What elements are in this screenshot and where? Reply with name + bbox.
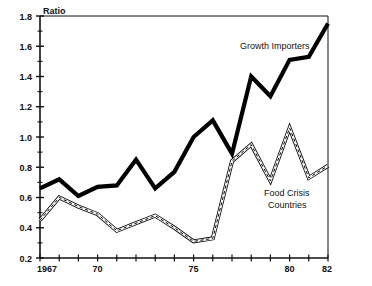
y-tick-label-0.2: 0.2 xyxy=(19,254,32,264)
y-tick-label-1.0: 1.0 xyxy=(19,133,32,143)
y-tick-label-1.2: 1.2 xyxy=(19,102,32,112)
chart-container: Ratio 0.20.40.60.81.01.21.41.61.8 196770… xyxy=(0,0,372,286)
x-tick-label-1967: 1967 xyxy=(37,264,57,274)
y-tick-label-0.8: 0.8 xyxy=(19,163,32,173)
y-tick-label-1.6: 1.6 xyxy=(19,42,32,52)
food-crisis-label-line2: Countries xyxy=(268,200,307,210)
y-axis-tick-labels: 0.20.40.60.81.01.21.41.61.8 xyxy=(19,12,32,264)
x-tick-label-80: 80 xyxy=(285,264,295,274)
y-tick-label-1.8: 1.8 xyxy=(19,12,32,22)
growth-importers-label: Growth Importers xyxy=(240,41,310,51)
x-tick-label-75: 75 xyxy=(189,264,199,274)
x-tick-label-82: 82 xyxy=(322,264,332,274)
line-chart: Ratio 0.20.40.60.81.01.21.41.61.8 196770… xyxy=(0,0,372,286)
food-crisis-label-line1: Food Crisis xyxy=(264,188,310,198)
y-tick-label-0.4: 0.4 xyxy=(19,223,32,233)
y-tick-label-0.6: 0.6 xyxy=(19,193,32,203)
y-tick-label-1.4: 1.4 xyxy=(19,72,32,82)
y-axis-title: Ratio xyxy=(43,6,66,16)
x-tick-label-70: 70 xyxy=(93,264,103,274)
